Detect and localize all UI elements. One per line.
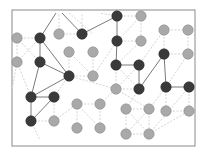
light-node	[49, 116, 59, 126]
dark-node	[35, 57, 45, 67]
light-node	[12, 57, 22, 67]
network-diagram	[0, 0, 202, 151]
light-node	[111, 84, 121, 94]
dark-node	[112, 11, 122, 21]
dark-node	[26, 116, 36, 126]
light-node	[144, 129, 154, 139]
dark-node	[184, 82, 194, 92]
dark-node	[134, 84, 144, 94]
light-node	[159, 25, 169, 35]
light-node	[121, 104, 131, 114]
dark-node	[35, 33, 45, 43]
light-node	[161, 106, 171, 116]
light-node	[64, 47, 74, 57]
light-node	[184, 106, 194, 116]
light-node	[72, 123, 82, 133]
light-node	[95, 99, 105, 109]
dark-node	[161, 82, 171, 92]
light-node	[95, 123, 105, 133]
dark-node	[64, 71, 74, 81]
dark-node	[49, 92, 59, 102]
dark-node	[26, 92, 36, 102]
light-node	[54, 29, 64, 39]
dark-node	[111, 60, 121, 70]
light-node	[88, 71, 98, 81]
dark-node	[159, 49, 169, 59]
light-node	[88, 47, 98, 57]
light-node	[144, 104, 154, 114]
light-node	[12, 33, 22, 43]
dark-node	[134, 60, 144, 70]
light-node	[72, 99, 82, 109]
dark-node	[112, 36, 122, 46]
light-node	[183, 49, 193, 59]
light-node	[136, 11, 146, 21]
dark-node	[77, 29, 87, 39]
light-node	[121, 129, 131, 139]
light-node	[183, 25, 193, 35]
light-node	[136, 36, 146, 46]
